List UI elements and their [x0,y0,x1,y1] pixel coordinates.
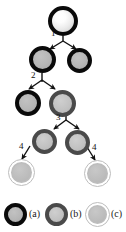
legend-label-c: (c) [111,209,122,219]
legend-label-b: (b) [70,209,82,219]
node-type-a-level2-right [67,48,92,73]
legend-item-a: (a) [4,198,44,232]
legend-swatch-type-a [4,203,27,226]
edge-label-4-left: 4 [19,142,24,151]
node-type-c-level5-left [9,160,34,185]
node-type-a-level3-left [15,90,41,116]
legend-swatch-type-b [45,203,68,226]
edge-label-2: 2 [31,71,36,80]
node-type-b-level4-right [65,130,90,155]
legend-item-c: (c) [86,198,126,232]
legend-swatch-type-c [86,203,109,226]
node-type-b-level4-left [32,129,57,154]
node-type-b-level3-right [49,90,76,117]
edge-label-1: 1 [51,29,56,38]
node-type-c-level5-right [85,161,110,186]
legend: (a) (b) (c) [0,198,126,232]
node-type-a-level2-left [29,46,56,73]
cell-lineage-figure: 1 2 3 4 4 (a) (b) (c) [0,0,126,232]
legend-item-b: (b) [45,198,85,232]
edge-label-3: 3 [56,113,61,122]
legend-label-a: (a) [29,209,40,219]
edge-label-4-right: 4 [92,143,97,152]
